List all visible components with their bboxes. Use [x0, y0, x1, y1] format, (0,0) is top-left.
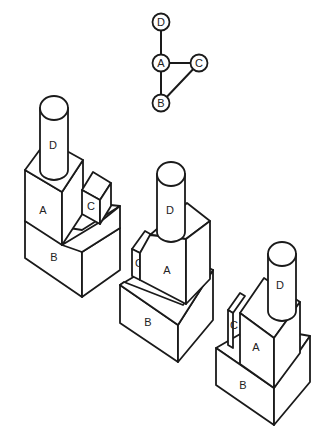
block-diagram: D A C B B A [0, 0, 330, 444]
block-d-label: D [276, 279, 284, 291]
structure-1: B A C D [25, 96, 120, 297]
graph-node-c-label: C [195, 57, 203, 69]
graph-node-a-label: A [157, 57, 165, 69]
block-d: D [268, 242, 296, 321]
graph-node-b: B [153, 95, 170, 112]
block-d: D [40, 96, 68, 180]
block-d: D [157, 162, 185, 242]
block-b-label: B [239, 379, 246, 391]
graph-node-d: D [153, 14, 170, 31]
graph-node-b-label: B [157, 97, 164, 109]
graph-node-d-label: D [157, 16, 165, 28]
block-a-label: A [39, 204, 47, 216]
block-a-label: A [163, 264, 171, 276]
block-b-label: B [50, 251, 57, 263]
block-c-label: C [230, 319, 238, 331]
graph-node-a: A [153, 55, 170, 72]
relation-graph: D A C B [153, 14, 208, 112]
structure-2: B C A D [120, 162, 213, 362]
graph-node-c: C [191, 55, 208, 72]
block-a-label: A [252, 341, 260, 353]
block-c-label: C [87, 200, 95, 212]
block-b-label: B [144, 316, 151, 328]
structure-3: B C A D [216, 242, 310, 425]
block-d-label: D [166, 204, 174, 216]
block-d-label: D [49, 139, 57, 151]
